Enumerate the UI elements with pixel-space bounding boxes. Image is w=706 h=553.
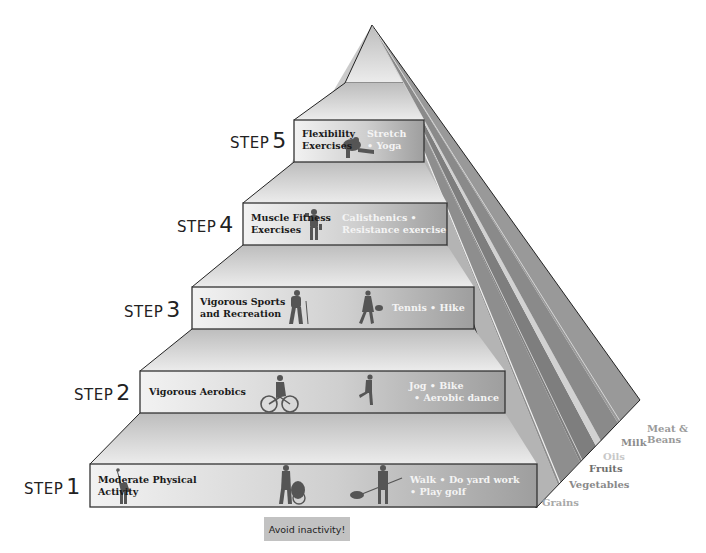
step-1-activities: Walk • Do yard work• Play golf: [410, 474, 520, 498]
food-label-vegetables: Vegetables: [569, 479, 629, 490]
step-4-title: Muscle FitnessExercises: [251, 212, 331, 236]
step-label-1: STEP1: [24, 474, 81, 499]
step-label-2: STEP2: [74, 380, 131, 405]
step-2-title: Vigorous Aerobics: [149, 386, 246, 398]
step-2-activities: Jog • Bike• Aerobic dance: [409, 380, 499, 404]
step-3-activities: Tennis • Hike: [392, 302, 465, 314]
activity-pyramid-diagram: STEP5 STEP4 STEP3 STEP2 STEP1 Flexibilit…: [0, 0, 706, 553]
food-label-meat-beans: Meat &Beans: [647, 423, 688, 445]
food-label-oils: Oils: [603, 451, 625, 462]
step-5-title: FlexibilityExercises: [302, 128, 355, 152]
food-label-grains: Grains: [542, 497, 579, 508]
step-5-activities: Stretch• Yoga: [367, 128, 406, 152]
step-label-5: STEP5: [230, 128, 287, 153]
avoid-inactivity-badge: Avoid inactivity!: [264, 517, 350, 541]
step-label-4: STEP4: [177, 212, 234, 237]
food-label-milk: Milk: [621, 437, 647, 448]
step-1-title: Moderate PhysicalActivity: [98, 474, 197, 498]
step-4-activities: Calisthenics •Resistance exercise: [342, 212, 446, 236]
step-label-3: STEP3: [124, 297, 181, 322]
food-label-fruits: Fruits: [589, 463, 623, 474]
step-3-title: Vigorous Sportsand Recreation: [200, 296, 285, 320]
